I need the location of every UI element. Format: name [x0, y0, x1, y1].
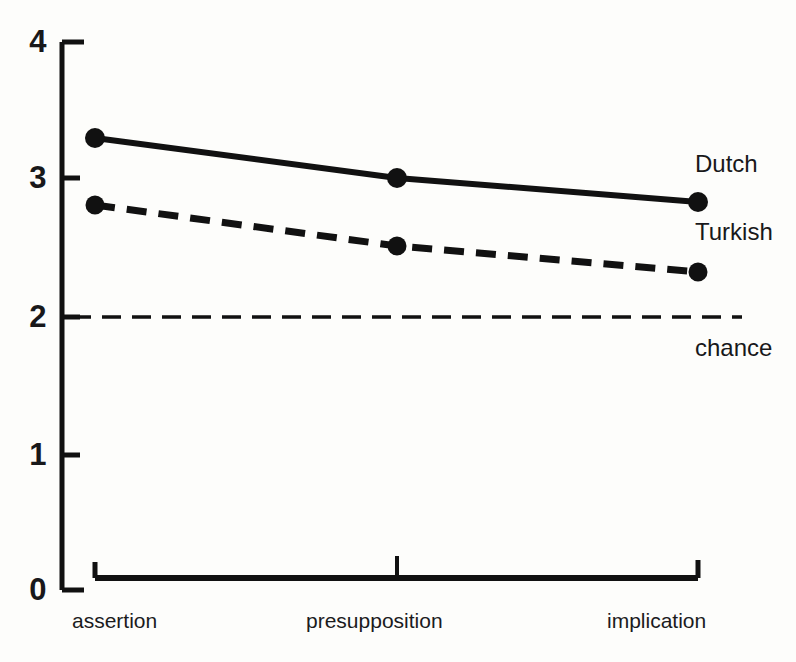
y-tick-label-3: 3	[12, 162, 46, 193]
data-point-dutch-presupposition	[387, 168, 407, 188]
series-label-turkish: Turkish	[695, 220, 773, 244]
y-tick-label-1: 1	[12, 439, 46, 470]
y-tick-label-0: 0	[12, 574, 46, 605]
y-tick-label-4: 4	[12, 26, 46, 57]
chart-container: 4 3 2 1 0 assertion presupposition impli…	[0, 0, 796, 662]
x-category-label-implication: implication	[607, 610, 706, 631]
x-category-label-assertion: assertion	[72, 610, 157, 631]
data-point-dutch-implication	[688, 192, 708, 212]
series-line-dutch	[85, 128, 708, 212]
series-label-chance: chance	[695, 336, 772, 360]
data-point-turkish-assertion	[86, 196, 105, 215]
data-point-turkish-implication	[689, 263, 708, 282]
data-point-turkish-presupposition	[388, 237, 407, 256]
chart-plot-area	[0, 0, 796, 662]
x-category-label-presupposition: presupposition	[306, 610, 443, 631]
series-label-dutch: Dutch	[695, 152, 758, 176]
y-tick-label-2: 2	[12, 301, 46, 332]
data-point-dutch-assertion	[85, 128, 105, 148]
series-line-turkish	[86, 196, 708, 282]
x-axis	[95, 556, 698, 578]
